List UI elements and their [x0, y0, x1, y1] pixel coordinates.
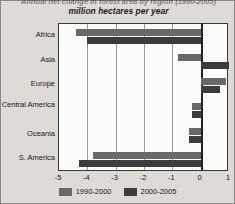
- bar: [178, 54, 201, 61]
- bar: [201, 86, 221, 93]
- bar: [93, 152, 201, 159]
- x-tick-label: -2: [140, 173, 147, 182]
- category-label: Europe: [0, 80, 55, 89]
- legend-item: 2000-2005: [124, 187, 177, 196]
- legend-label: 2000-2005: [141, 187, 177, 196]
- category-label: Africa: [0, 31, 55, 40]
- x-tick-label: 1: [226, 173, 230, 182]
- gridline: [144, 24, 145, 170]
- legend-item: 1990-2000: [59, 187, 112, 196]
- gridline: [116, 24, 117, 170]
- x-tick-label: -5: [55, 173, 62, 182]
- bar: [79, 160, 201, 167]
- legend-swatch: [124, 188, 137, 196]
- chart-figure: Annual net change in forest area by regi…: [0, 0, 235, 204]
- chart-title-line2: million hectares per year: [1, 6, 235, 16]
- category-label: Asia: [0, 56, 55, 65]
- category-label: N. & Central America: [0, 101, 55, 110]
- chart-legend: 1990-20002000-2005: [1, 187, 234, 196]
- x-tick-label: -1: [168, 173, 175, 182]
- legend-swatch: [59, 188, 72, 196]
- bar: [189, 136, 200, 143]
- plot-area: [58, 23, 228, 171]
- bar: [189, 128, 200, 135]
- x-tick-label: -3: [111, 173, 118, 182]
- x-tick-label: -4: [83, 173, 90, 182]
- bar: [201, 78, 227, 85]
- x-tick-label: 0: [198, 173, 202, 182]
- category-label: Oceania: [0, 130, 55, 139]
- bar: [201, 62, 229, 69]
- bar: [76, 29, 201, 36]
- chart-title-line1: Annual net change in forest area by regi…: [1, 0, 235, 6]
- bar: [87, 37, 200, 44]
- category-label: S. America: [0, 154, 55, 163]
- chart-title: Annual net change in forest area by regi…: [1, 1, 235, 16]
- legend-label: 1990-2000: [76, 187, 112, 196]
- gridline: [172, 24, 173, 170]
- bar: [192, 111, 201, 118]
- gridline: [87, 24, 88, 170]
- zero-axis-line: [201, 23, 203, 171]
- bar: [192, 103, 201, 110]
